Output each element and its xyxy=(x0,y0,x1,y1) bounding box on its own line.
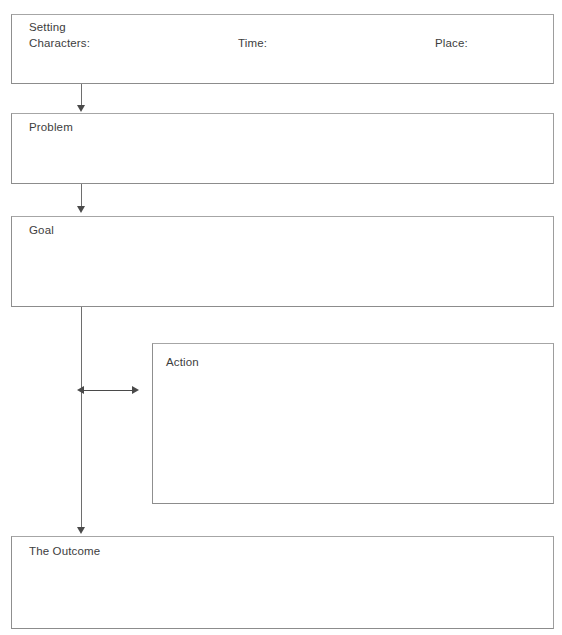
arrow-right-head-icon xyxy=(132,386,139,394)
setting-title: Setting xyxy=(29,20,66,35)
goal-box[interactable]: Goal xyxy=(11,216,554,307)
time-label: Time: xyxy=(238,36,267,51)
action-box[interactable]: Action xyxy=(152,343,554,504)
place-label: Place: xyxy=(435,36,468,51)
outcome-title: The Outcome xyxy=(29,544,100,559)
arrow-down-icon xyxy=(77,206,85,213)
connector-goal-to-outcome xyxy=(81,307,82,529)
arrow-down-icon xyxy=(77,527,85,534)
setting-box[interactable]: Setting Characters: Time: Place: xyxy=(11,14,554,84)
action-title: Action xyxy=(166,355,199,370)
arrow-down-icon xyxy=(77,105,85,112)
double-headed-arrow-icon xyxy=(77,386,139,395)
clipped-header-text: .... xyxy=(368,0,558,3)
problem-box[interactable]: Problem xyxy=(11,113,554,184)
characters-label: Characters: xyxy=(29,36,90,51)
arrow-shaft xyxy=(81,390,135,391)
problem-title: Problem xyxy=(29,120,73,135)
goal-title: Goal xyxy=(29,223,54,238)
story-map-worksheet: .... Setting Characters: Time: Place: Pr… xyxy=(0,0,562,635)
outcome-box[interactable]: The Outcome xyxy=(11,536,554,629)
